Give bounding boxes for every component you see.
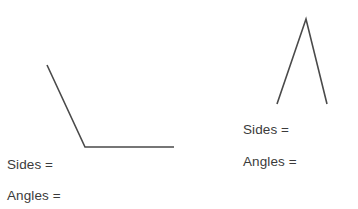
figures-drawing-layer — [0, 0, 358, 209]
obtuse-angle-figure — [47, 65, 174, 147]
left-figure-sides-label: Sides = — [7, 157, 53, 173]
right-figure-angles-label: Angles = — [243, 154, 297, 170]
worksheet-canvas: Sides = Angles = Sides = Angles = — [0, 0, 358, 209]
peak-angle-figure — [277, 19, 327, 104]
left-figure-angles-label: Angles = — [7, 188, 61, 204]
right-figure-sides-label: Sides = — [243, 122, 289, 138]
